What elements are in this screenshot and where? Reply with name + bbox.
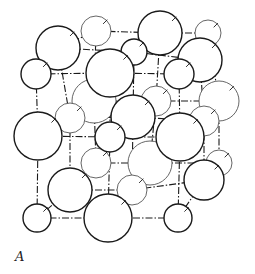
figure-label: A bbox=[15, 249, 24, 264]
crystal-lattice-diagram bbox=[0, 0, 255, 274]
lattice-atoms bbox=[14, 11, 239, 242]
